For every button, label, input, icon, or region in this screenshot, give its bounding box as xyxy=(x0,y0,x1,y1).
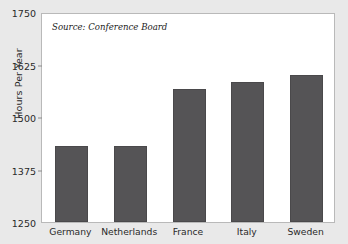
x-label-sweden: Sweden xyxy=(287,226,323,237)
y-tick-label: 1625 xyxy=(0,60,36,71)
bar-germany xyxy=(55,146,88,222)
x-label-italy: Italy xyxy=(237,226,257,237)
plot-area: Source: Conference Board xyxy=(41,13,335,223)
bar-netherlands xyxy=(114,146,147,222)
bar-italy xyxy=(231,82,264,222)
x-label-germany: Germany xyxy=(49,226,91,237)
x-label-france: France xyxy=(173,226,204,237)
bar-sweden xyxy=(290,75,323,222)
y-tick-mark xyxy=(38,118,42,119)
bar-series xyxy=(42,14,334,222)
y-tick-label: 1500 xyxy=(0,113,36,124)
y-tick-label: 1375 xyxy=(0,165,36,176)
bar-france xyxy=(173,89,206,222)
y-axis-title: Hours Per Year xyxy=(13,14,24,154)
bar-chart-figure: Source: Conference Board Hours Per Year … xyxy=(0,0,348,244)
y-tick-mark xyxy=(38,170,42,171)
x-label-netherlands: Netherlands xyxy=(101,226,157,237)
y-tick-label: 1750 xyxy=(0,8,36,19)
y-tick-label: 1250 xyxy=(0,218,36,229)
y-tick-mark xyxy=(38,65,42,66)
